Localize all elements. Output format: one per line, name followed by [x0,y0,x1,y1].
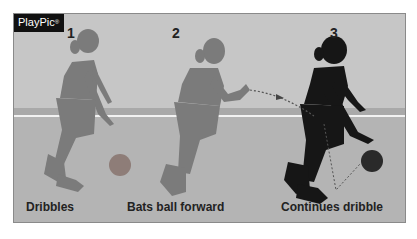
registered-mark: ® [55,19,59,25]
step-2-number: 2 [172,25,180,41]
step-3-number: 3 [330,25,338,41]
player-3-figure [284,36,383,204]
illustration-frame: PlayPic® 1 2 3 Dribbles Bats ball forwar… [13,13,406,223]
player-2-figure [160,38,250,196]
step-1-caption: Dribbles [26,200,74,214]
logo-text: PlayPic [18,16,55,28]
step-3-caption: Continues dribble [281,200,383,214]
figures-illustration [14,14,406,223]
playpic-logo: PlayPic® [14,14,64,32]
step-2-caption: Bats ball forward [127,200,224,214]
player-1-figure [44,29,131,192]
step-1-number: 1 [67,25,75,41]
